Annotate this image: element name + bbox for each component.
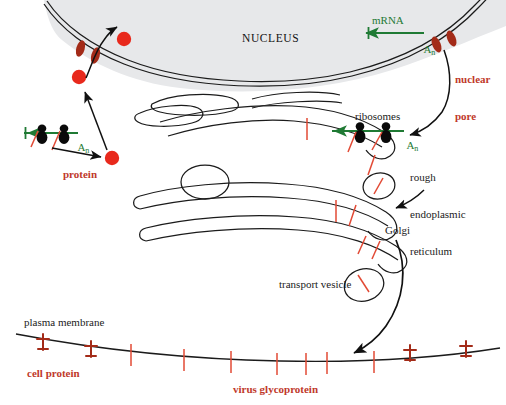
rough-er-label-line2: endoplasmic xyxy=(410,208,466,220)
cell-protein-4 xyxy=(460,341,472,357)
rough-er-label-line3: reticulum xyxy=(410,245,466,257)
poly-a-subscript-free: n xyxy=(85,146,89,155)
nucleus-label: NUCLEUS xyxy=(242,32,299,45)
nuclear-pore-label-line1: nuclear xyxy=(455,73,490,85)
cell-protein-2 xyxy=(85,341,97,357)
figure-canvas: NUCLEUS mRNA An nuclear pore ribosomes A… xyxy=(0,0,506,405)
plasma-membrane xyxy=(16,334,500,361)
poly-a-subscript: n xyxy=(431,48,435,57)
poly-a-tail-label-free: An xyxy=(67,129,89,168)
transport-vesicle-label: transport vesicle xyxy=(279,278,351,290)
poly-a-tail-label-nucleus: An xyxy=(413,31,435,70)
ribosome-pair-left xyxy=(37,125,70,144)
protein-dot-in-nucleus xyxy=(117,32,131,46)
rough-er-label-line1: rough xyxy=(410,171,466,183)
rough-er-label: rough endoplasmic reticulum xyxy=(410,146,466,281)
bound-polysome-right xyxy=(332,122,404,152)
cell-protein-1 xyxy=(37,334,49,350)
ribosomes-label: ribosomes xyxy=(355,110,400,122)
mrna-label: mRNA xyxy=(372,14,404,26)
golgi-label: Golgi xyxy=(385,224,410,236)
virus-glycoprotein-label: virus glycoprotein xyxy=(233,383,318,395)
plasma-membrane-label: plasma membrane xyxy=(24,316,104,328)
nuclear-pore-label: nuclear pore xyxy=(455,48,490,147)
nuclear-pore-label-line2: pore xyxy=(455,110,490,122)
arrow-golgi-to-plasma-membrane xyxy=(354,240,403,353)
protein-label: protein xyxy=(63,168,97,180)
cell-protein-label: cell protein xyxy=(27,367,80,379)
glycoprotein-spikes-membrane xyxy=(131,344,374,375)
protein-dot-cytosol-upper xyxy=(72,70,86,84)
protein-dot-cytosol-lower xyxy=(105,151,119,165)
